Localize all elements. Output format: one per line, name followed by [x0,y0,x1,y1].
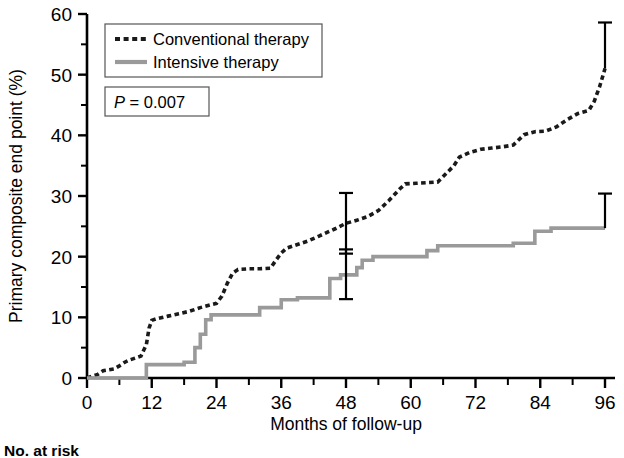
legend-label-intensive: Intensive therapy [153,53,279,71]
legend-label-conventional: Conventional therapy [153,30,310,48]
x-tick-label: 36 [271,392,292,413]
y-tick-label: 20 [51,247,72,268]
x-axis-tick-labels: 01224364860728496 [82,392,616,413]
p-value-number: = 0.007 [125,93,185,111]
figure-container: 01224364860728496 0102030405060 Months o… [0,0,624,458]
y-tick-label: 40 [51,125,72,146]
y-tick-label: 60 [51,4,72,25]
x-tick-label: 12 [141,392,162,413]
kaplan-meier-chart: 01224364860728496 0102030405060 Months o… [0,0,624,458]
y-tick-label: 0 [61,368,72,389]
p-value-symbol: P [114,93,125,111]
risk-table-title: No. at risk [4,442,79,458]
x-tick-label: 72 [465,392,486,413]
legend: Conventional therapy Intensive therapy [105,24,322,77]
p-value-text: P = 0.007 [114,93,185,111]
x-tick-label: 60 [400,392,421,413]
p-value-annotation: P = 0.007 [105,87,209,116]
x-tick-label: 0 [82,392,93,413]
x-axis-title: Months of follow-up [270,414,422,434]
y-tick-label: 30 [51,186,72,207]
x-tick-label: 48 [335,392,356,413]
x-tick-label: 84 [530,392,552,413]
x-tick-label: 96 [594,392,615,413]
y-axis-title: Primary composite end point (%) [6,69,26,323]
y-tick-label: 50 [51,65,72,86]
x-tick-label: 24 [206,392,228,413]
y-tick-label: 10 [51,307,72,328]
